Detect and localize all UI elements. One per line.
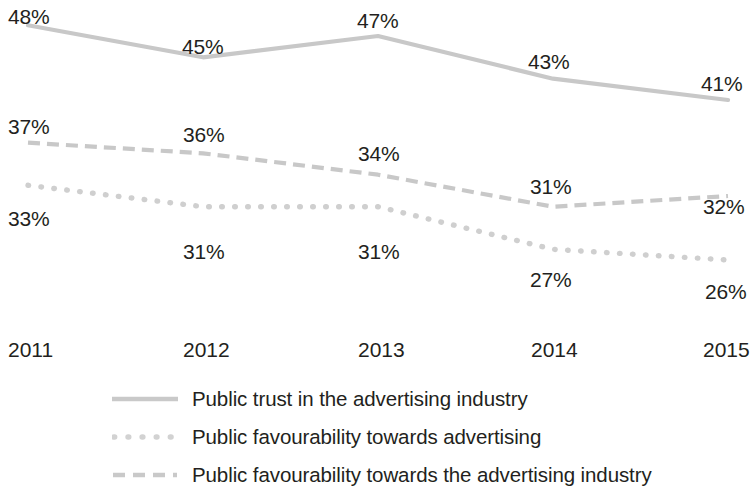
x-axis-tick-2012: 2012	[183, 339, 230, 360]
data-label-fav-advertising-2015: 26%	[705, 281, 746, 302]
data-label-fav-industry-2014: 31%	[530, 176, 571, 197]
data-label-fav-industry-2011: 37%	[8, 116, 49, 137]
x-axis-tick-2011: 2011	[8, 339, 53, 360]
plot-area	[0, 0, 751, 350]
legend-item-fav-advertising[interactable]: Public favourability towards advertising	[0, 418, 751, 456]
x-axis-tick-2015: 2015	[703, 339, 750, 360]
x-axis-tick-2013: 2013	[358, 339, 405, 360]
legend-item-public-trust[interactable]: Public trust in the advertising industry	[0, 380, 751, 418]
series-line-public-trust	[28, 25, 728, 100]
data-label-fav-advertising-2014: 27%	[530, 269, 571, 290]
line-chart: 48% 45% 47% 43% 41% 37% 36% 34% 31% 32% …	[0, 0, 751, 494]
data-label-trust-2011: 48%	[8, 6, 49, 27]
data-label-trust-2013: 47%	[357, 10, 398, 31]
legend-label-public-trust: Public trust in the advertising industry	[192, 387, 528, 411]
data-label-trust-2014: 43%	[528, 51, 569, 72]
legend-item-fav-industry[interactable]: Public favourability towards the adverti…	[0, 456, 751, 494]
data-label-trust-2015: 41%	[701, 73, 742, 94]
data-label-fav-industry-2015: 32%	[703, 196, 744, 217]
data-label-fav-advertising-2012: 31%	[183, 241, 224, 262]
data-label-fav-industry-2013: 34%	[358, 143, 399, 164]
legend-swatch-dashed-icon	[112, 468, 178, 482]
data-label-trust-2012: 45%	[182, 36, 223, 57]
legend-label-fav-advertising: Public favourability towards advertising	[192, 425, 541, 449]
data-label-fav-advertising-2013: 31%	[358, 241, 399, 262]
data-label-fav-industry-2012: 36%	[183, 124, 224, 145]
x-axis-tick-2014: 2014	[531, 339, 578, 360]
chart-legend: Public trust in the advertising industry…	[0, 380, 751, 494]
legend-label-fav-industry: Public favourability towards the adverti…	[192, 463, 652, 487]
data-label-fav-advertising-2011: 33%	[8, 208, 49, 229]
legend-swatch-dotted-icon	[112, 430, 178, 444]
legend-swatch-solid-icon	[112, 392, 178, 406]
